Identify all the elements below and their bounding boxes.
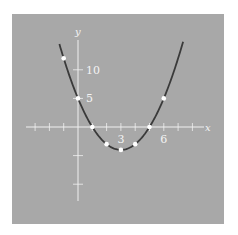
data-point [147, 125, 152, 130]
y-tick-label: 5 [86, 92, 93, 105]
y-tick-label: 10 [86, 64, 100, 77]
plot-background [12, 14, 224, 224]
x-tick-label: 6 [160, 133, 167, 146]
x-tick-label: 3 [117, 133, 124, 146]
data-point [133, 142, 138, 147]
data-point [162, 96, 167, 101]
data-point [90, 125, 95, 130]
parabola-chart: x y 36510 [0, 0, 238, 235]
data-point [104, 142, 109, 147]
y-axis-label: y [74, 26, 81, 37]
data-point [61, 56, 66, 61]
x-axis-label: x [205, 122, 211, 133]
data-point [76, 96, 81, 101]
data-point [119, 148, 124, 153]
